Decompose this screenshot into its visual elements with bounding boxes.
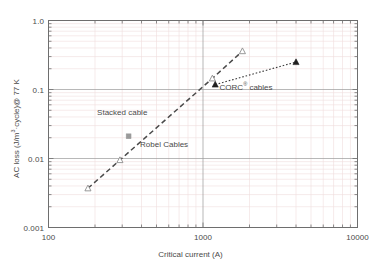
chart-plot-area (0, 0, 381, 268)
data-point-marker (239, 48, 245, 54)
data-point-marker (212, 81, 218, 87)
series-lines (88, 51, 296, 188)
y-tick-label: 0.01 (4, 154, 44, 163)
annotation-label: Stacked cable (97, 108, 147, 117)
y-axis-title: AC loss (J/m3·cycle)@ 77 K (12, 59, 21, 199)
x-tick-label: 100 (42, 233, 56, 242)
y-tick-label: 1.0 (4, 16, 44, 25)
data-point-marker (126, 134, 131, 139)
series-line-0 (88, 51, 243, 188)
data-point-marker (209, 75, 215, 81)
x-axis-title: Critical current (A) (0, 250, 381, 259)
data-point-marker (293, 59, 299, 65)
annotation-label: CORC® cables (220, 83, 273, 92)
series-line-1 (215, 62, 296, 84)
x-tick-label: 1000 (194, 233, 212, 242)
x-tick-label: 10000 (346, 233, 369, 242)
annotation-label: Robel Cables (140, 140, 188, 149)
ac-loss-chart: 0.0010.010.11.0 100100010000 AC loss (J/… (0, 0, 381, 268)
y-tick-label: 0.001 (4, 223, 44, 232)
y-tick-label: 0.1 (4, 85, 44, 94)
